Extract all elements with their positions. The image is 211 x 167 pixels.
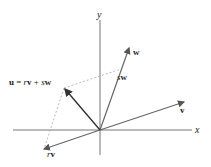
- x-axis-label: x: [194, 124, 200, 135]
- dashed-line-u-to-sw: [64, 69, 121, 88]
- diagram-svg: y x w sw v rv u = rv + sw: [0, 0, 211, 167]
- vector-rv-label: rv: [47, 149, 56, 159]
- vector-diagram: y x w sw v rv u = rv + sw: [0, 0, 211, 167]
- vector-sw-label: sw: [117, 72, 128, 82]
- vector-v-label: v: [180, 105, 185, 115]
- y-axis-label: y: [96, 9, 102, 20]
- vector-u-arrow: [65, 89, 100, 130]
- dashed-line-u-to-rv: [44, 88, 64, 149]
- vector-w-label: w: [133, 47, 140, 57]
- vector-v-arrow: [100, 102, 184, 130]
- vector-u-equation-label: u = rv + sw: [9, 77, 52, 87]
- vector-rv-arrow: [44, 130, 100, 149]
- vector-w-arrow: [100, 48, 129, 130]
